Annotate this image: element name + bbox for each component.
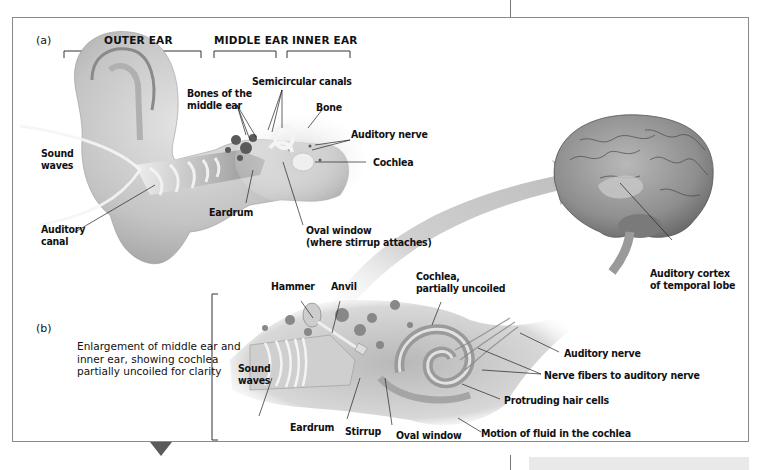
label-auditory-cortex-line1: Auditory cortex — [650, 267, 730, 279]
label-hammer: Hammer — [271, 280, 315, 292]
ear-anatomy-illustration — [0, 0, 757, 470]
inner-ear-heading: INNER EAR — [292, 34, 358, 46]
label-protruding-hair-cells: Protruding hair cells — [504, 394, 609, 406]
label-auditory-canal-line1: Auditory — [41, 223, 85, 235]
panel-b-caption: Enlargement of middle ear and inner ear,… — [77, 340, 247, 378]
label-eardrum-a: Eardrum — [209, 206, 253, 218]
label-cochlea-b-line2: partially uncoiled — [416, 282, 505, 294]
label-auditory-cortex-line2: of temporal lobe — [650, 279, 735, 291]
label-auditory-nerve-a: Auditory nerve — [351, 128, 428, 140]
label-anvil: Anvil — [331, 280, 357, 292]
label-sound-waves-b-line1: Sound — [238, 362, 271, 374]
panel-b-tag: (b) — [36, 322, 52, 335]
label-sound-waves-a-line2: waves — [41, 159, 73, 171]
label-bones-middle-ear-line1: Bones of the — [187, 87, 252, 99]
label-sound-waves-a-line1: Sound — [41, 147, 74, 159]
label-cochlea-a: Cochlea — [373, 156, 413, 168]
label-cochlea-b-line1: Cochlea, — [416, 270, 460, 282]
label-fluid-motion: Motion of fluid in the cochlea — [481, 427, 631, 439]
label-auditory-canal-line2: canal — [41, 235, 68, 247]
label-stirrup: Stirrup — [345, 425, 381, 437]
label-oval-window-a-line2: (where stirrup attaches) — [306, 236, 432, 248]
label-sound-waves-b-line2: waves — [238, 374, 270, 386]
label-eardrum-b: Eardrum — [290, 421, 334, 433]
label-bones-middle-ear-line2: middle ear — [187, 99, 242, 111]
panel-a-tag: (a) — [36, 34, 51, 47]
label-auditory-nerve-b: Auditory nerve — [564, 347, 641, 359]
outer-ear-heading: OUTER EAR — [104, 34, 173, 46]
continue-arrow-icon — [150, 442, 172, 456]
label-oval-window-b: Oval window — [396, 429, 462, 441]
label-oval-window-a-line1: Oval window — [306, 224, 372, 236]
middle-ear-heading: MIDDLE EAR — [214, 34, 289, 46]
label-nerve-fibers: Nerve fibers to auditory nerve — [544, 369, 700, 381]
label-semicircular-canals: Semicircular canals — [252, 75, 352, 87]
label-bone: Bone — [316, 101, 342, 113]
